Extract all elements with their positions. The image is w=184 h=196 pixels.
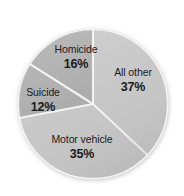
pie-chart-canvas: [0, 0, 184, 196]
pie-sheen-overlay: [19, 30, 168, 179]
pie-slices-group: [18, 29, 168, 179]
pie-chart: All other 37% Motor vehicle 35% Suicide …: [0, 0, 184, 196]
